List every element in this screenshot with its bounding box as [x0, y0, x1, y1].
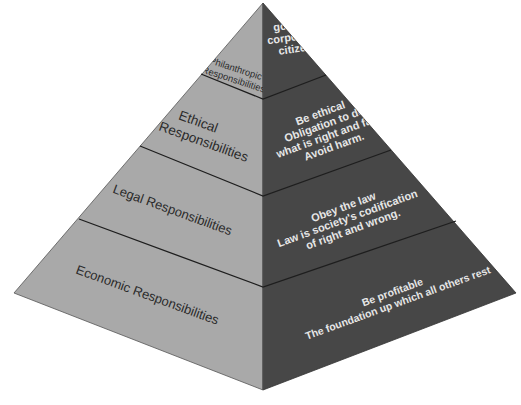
- csr-pyramid-diagram: Philanthropic Responsibilities Ethical R…: [0, 0, 521, 405]
